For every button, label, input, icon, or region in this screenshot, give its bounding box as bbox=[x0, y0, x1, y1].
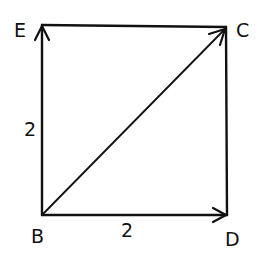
edge-bc-diagonal-vector bbox=[42, 29, 225, 215]
vector-square-diagram: E C B D 2 2 bbox=[0, 0, 267, 255]
vertex-label-d: D bbox=[225, 228, 240, 250]
edge-ec bbox=[42, 25, 226, 27]
vertex-label-c: C bbox=[236, 19, 249, 41]
vertex-label-e: E bbox=[14, 19, 26, 41]
edge-cd bbox=[226, 27, 227, 215]
length-label-bottom: 2 bbox=[121, 219, 133, 241]
length-label-left: 2 bbox=[24, 118, 36, 140]
vertex-label-b: B bbox=[31, 225, 44, 247]
